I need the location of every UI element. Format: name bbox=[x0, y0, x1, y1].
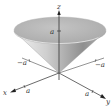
cone-diagram: z a x a y a −a −a bbox=[0, 0, 112, 108]
neg-x-tick bbox=[29, 59, 30, 62]
x-axis bbox=[13, 73, 59, 91]
y-axis-label: y bbox=[105, 98, 111, 106]
x-axis-arrow-icon bbox=[10, 89, 16, 93]
neg-y-tick-label: −a bbox=[95, 61, 105, 69]
cone-top bbox=[14, 17, 106, 43]
z-axis-label: z bbox=[56, 3, 61, 11]
cone-figure: z a x a y a −a −a bbox=[0, 0, 112, 108]
x-tick bbox=[24, 85, 25, 88]
x-tick-label: a bbox=[26, 87, 30, 95]
z-tick-label: a bbox=[50, 28, 54, 36]
y-tick-label: a bbox=[85, 90, 89, 98]
neg-x-tick-label: −a bbox=[17, 59, 27, 67]
x-axis-label: x bbox=[3, 89, 7, 97]
y-axis bbox=[59, 73, 103, 97]
y-tick bbox=[92, 90, 93, 93]
